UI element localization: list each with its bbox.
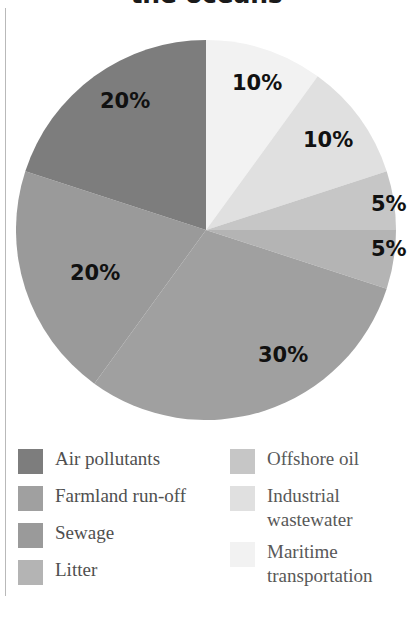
slice-label-offshore-oil: 5% [371, 194, 407, 215]
chart-title: the oceans [0, 0, 413, 9]
slice-label-farmland-runoff: 30% [258, 345, 308, 366]
legend-swatch-icon [230, 449, 255, 474]
legend-item-label: Industrial wastewater [267, 484, 413, 532]
legend-item-maritime-transportation[interactable]: Maritime transportation [230, 540, 413, 588]
legend-item-label: Farmland run-off [55, 484, 186, 508]
legend-item-farmland-runoff[interactable]: Farmland run-off [18, 484, 233, 511]
pie-chart [16, 40, 396, 420]
slice-label-litter: 5% [371, 239, 407, 260]
legend-item-industrial-wastewater[interactable]: Industrial wastewater [230, 484, 413, 532]
legend-item-sewage[interactable]: Sewage [18, 521, 233, 548]
pie-svg [16, 40, 396, 420]
legend-column-left: Air pollutants Farmland run-off Sewage L… [18, 447, 233, 595]
slice-label-maritime-transportation: 10% [232, 73, 282, 94]
chart-page: the oceans 10% 10% 5% 5% 30% 20% 20% [0, 0, 413, 620]
legend-item-label: Offshore oil [267, 447, 359, 471]
legend-swatch-icon [18, 560, 43, 585]
slice-label-industrial-wastewater: 10% [303, 130, 353, 151]
left-border-rule [5, 8, 6, 596]
legend-swatch-icon [18, 523, 43, 548]
legend-item-air-pollutants[interactable]: Air pollutants [18, 447, 233, 474]
legend-item-label: Maritime transportation [267, 540, 413, 588]
legend-swatch-icon [230, 542, 255, 567]
legend-item-litter[interactable]: Litter [18, 558, 233, 585]
legend-swatch-icon [18, 449, 43, 474]
legend-item-label: Air pollutants [55, 447, 160, 471]
legend-item-label: Sewage [55, 521, 114, 545]
legend-swatch-icon [230, 486, 255, 511]
slice-label-air-pollutants: 20% [100, 91, 150, 112]
legend: Air pollutants Farmland run-off Sewage L… [18, 447, 408, 607]
legend-item-offshore-oil[interactable]: Offshore oil [230, 447, 413, 474]
legend-swatch-icon [18, 486, 43, 511]
slice-label-sewage: 20% [70, 263, 120, 284]
legend-item-label: Litter [55, 558, 97, 582]
legend-column-right: Offshore oil Industrial wastewater Marit… [230, 447, 413, 596]
